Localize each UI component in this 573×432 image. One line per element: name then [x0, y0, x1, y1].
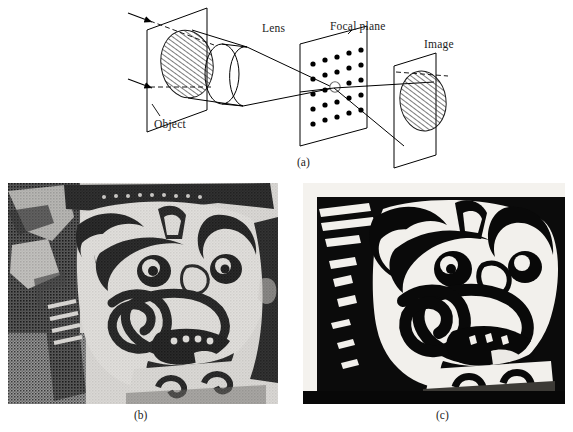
- object-leader-line: [152, 104, 160, 116]
- panel-b-photograph: [8, 183, 278, 404]
- label-image: Image: [424, 38, 454, 50]
- caption-c: (c): [436, 409, 449, 421]
- mask-photo-high-contrast: [303, 183, 565, 404]
- caption-a: (a): [297, 156, 310, 168]
- optical-diagram-svg: [0, 0, 573, 172]
- focal-point-marker: [330, 82, 340, 92]
- label-object: Object: [154, 118, 186, 130]
- object-ellipse: [156, 26, 218, 101]
- label-focal-plane: Focal plane: [330, 20, 386, 32]
- converging-rays: [243, 47, 334, 106]
- mask-photo-normal-contrast: [8, 183, 278, 404]
- image-ellipse: [396, 68, 450, 134]
- panel-a-optical-diagram: Object Lens Focal plane Image: [0, 0, 573, 172]
- panel-c-photograph: [303, 183, 565, 404]
- label-lens: Lens: [262, 22, 285, 34]
- caption-b: (b): [134, 409, 147, 421]
- incoming-rays: [128, 13, 152, 88]
- figure-root: Object Lens Focal plane Image (a): [0, 0, 573, 432]
